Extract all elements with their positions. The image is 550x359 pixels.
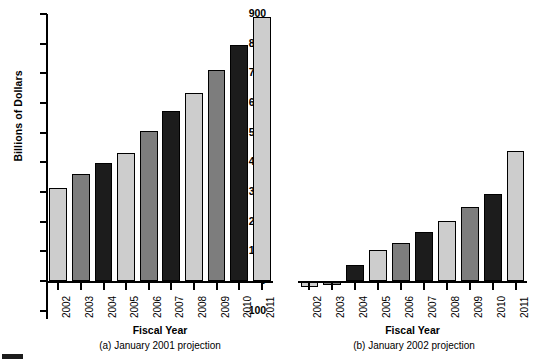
x-tick-label: 2005 [382,296,392,318]
bar [140,131,158,281]
x-tick-label: 2011 [520,297,530,318]
x-tick [331,283,333,290]
x-tick-label: 2006 [153,296,163,318]
x-tick [103,283,105,290]
x-tick-label: 2004 [108,296,118,318]
x-tick [125,283,127,290]
bar [392,243,410,281]
x-tick [193,283,195,290]
panel-january-2002: 2002200320042005200620072008200920102011… [278,0,550,359]
x-tick [492,283,494,290]
x-tick [446,283,448,290]
bar [162,111,180,281]
x-tick [377,283,379,290]
x-tick-label: 2011 [266,297,276,318]
x-tick-label: 2007 [175,296,185,318]
bar [507,151,525,281]
x-tick-label: 2009 [221,296,231,318]
caption-square-marker [2,354,23,359]
x-tick-label: 2005 [130,296,140,318]
x-tick [308,283,310,290]
x-tick-label: 2007 [428,296,438,318]
x-tick-label: 2009 [474,296,484,318]
x-tick-label: 2008 [451,296,461,318]
bar [208,70,226,281]
x-tick [238,283,240,290]
x-tick [80,283,82,290]
figure-caption-strip [0,352,550,359]
x-tick [216,283,218,290]
bar [49,188,67,281]
x-tick [515,283,517,290]
x-tick [148,283,150,290]
bar [253,17,271,281]
bar [438,221,456,281]
bar [484,194,502,281]
bar [346,265,364,281]
x-axis-title-a: Fiscal Year [47,324,273,336]
x-tick-label: 2008 [198,296,208,318]
x-tick [57,283,59,290]
plot-area-a [47,14,272,282]
x-tick-label: 2004 [359,296,369,318]
x-tick-label: 2003 [85,296,95,318]
x-tick-label: 2002 [62,296,72,318]
bar [369,250,387,281]
bar [117,153,135,281]
panel-a-caption: (a) January 2001 projection [27,340,293,351]
x-tick [423,283,425,290]
plot-area-b [298,14,526,282]
bar [415,232,433,281]
x-tick-label: 2006 [405,296,415,318]
bar [461,207,479,281]
x-tick [354,283,356,290]
x-axis-title-b: Fiscal Year [298,324,527,336]
bar [230,45,248,281]
bar [185,93,203,281]
x-tick-label: 2010 [243,296,253,318]
bar [95,163,113,281]
bar [72,174,90,281]
panel-january-2001: 2002200320042005200620072008200920102011… [0,0,278,359]
panel-b-caption: (b) January 2002 projection [278,340,550,351]
x-tick-label: 2003 [336,296,346,318]
x-tick [170,283,172,290]
x-tick-label: 2010 [497,296,507,318]
x-tick [400,283,402,290]
x-tick [469,283,471,290]
x-tick [261,283,263,290]
figure-two-panel-bar-chart: 9008007006005004003002001000-100 Billion… [0,0,550,359]
x-tick-label: 2002 [313,296,323,318]
